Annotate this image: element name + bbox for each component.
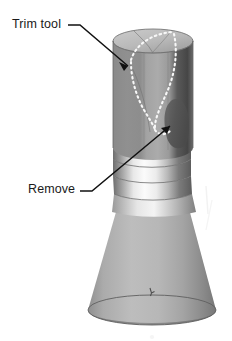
annotation-label-remove: Remove — [28, 182, 75, 196]
annotation-label-trim-tool: Trim tool — [12, 17, 61, 31]
cad-model-illustration — [0, 0, 232, 341]
cone-body — [88, 205, 216, 325]
figure-canvas: Trim tool Remove — [0, 0, 232, 341]
